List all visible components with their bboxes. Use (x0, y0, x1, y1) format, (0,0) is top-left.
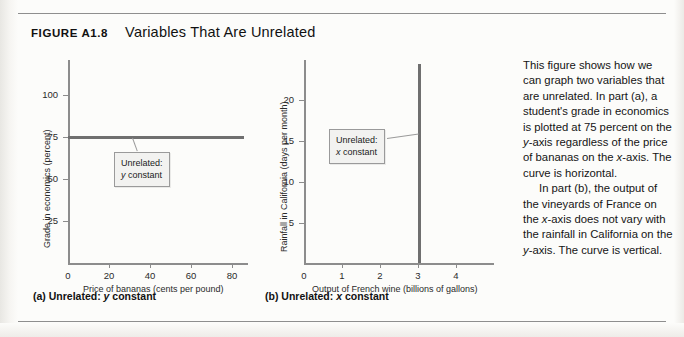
annotation-line2-b: x constant (336, 146, 378, 158)
scan-edge-left (0, 0, 18, 337)
figure-page: FIGURE A1.8 Variables That Are Unrelated… (0, 0, 684, 337)
x-tick-label-b-4: 4 (445, 270, 467, 281)
x-axis-b (304, 263, 494, 265)
annotation-box-b: Unrelated: x constant (329, 129, 385, 164)
figure-header: FIGURE A1.8 Variables That Are Unrelated (31, 24, 316, 40)
x-tick-label-a-0: 0 (57, 270, 79, 281)
y-tick-a-100 (63, 95, 68, 96)
chart-panel-a: 100 75 50 25 0 20 40 60 80 Grade in econ… (28, 58, 268, 308)
side-paragraph-2: In part (b), the output of the vineyards… (523, 181, 673, 258)
y-tick-b-15 (299, 141, 304, 142)
x-tick-a-80 (232, 263, 233, 268)
caption-a-suffix: constant (109, 290, 156, 302)
y-axis-a (68, 60, 70, 264)
x-tick-label-b-0: 0 (293, 270, 315, 281)
x-tick-label-a-20: 20 (98, 270, 120, 281)
annotation-line1-a: Unrelated: (121, 157, 163, 169)
x-tick-label-b-3: 3 (407, 270, 429, 281)
side-paragraph-1: This figure shows how we can graph two v… (523, 58, 673, 181)
side-p2-c: -axis. The curve is vertical. (529, 244, 663, 256)
figure-number: FIGURE A1.8 (31, 27, 108, 39)
annotation-line2-a: y constant (121, 169, 163, 181)
y-tick-label-a-100: 100 (32, 89, 58, 100)
x-tick-a-60 (191, 263, 192, 268)
y-tick-b-10 (299, 182, 304, 183)
x-tick-label-a-40: 40 (139, 270, 161, 281)
scan-edge-bottom (0, 323, 684, 337)
caption-a-prefix: (a) Unrelated: (33, 290, 104, 302)
x-tick-b-1 (342, 263, 343, 268)
figure-title: Variables That Are Unrelated (125, 24, 315, 40)
caption-b-prefix: (b) Unrelated: (265, 290, 336, 302)
x-tick-label-a-80: 80 (221, 270, 243, 281)
x-axis-a (68, 263, 248, 265)
callout-leader-b (387, 134, 419, 139)
annotation-rest-b: constant (341, 147, 378, 157)
bottom-divider (18, 321, 666, 322)
chart-panel-b: 20 15 10 5 0 1 2 3 4 Rainfall in Califor… (262, 58, 512, 308)
y-axis-label-a: Grade in economics (percent) (42, 129, 52, 248)
x-tick-b-3 (418, 263, 419, 268)
x-tick-b-4 (456, 263, 457, 268)
series-line-b (418, 64, 421, 263)
y-tick-b-20 (299, 100, 304, 101)
caption-b-suffix: constant (342, 290, 389, 302)
series-line-a (68, 136, 244, 139)
y-tick-a-50 (63, 179, 68, 180)
top-divider (18, 13, 666, 14)
x-tick-a-40 (150, 263, 151, 268)
side-p1-a: This figure shows how we can graph two v… (523, 59, 672, 133)
y-axis-b (304, 60, 306, 264)
y-tick-a-25 (63, 221, 68, 222)
caption-b: (b) Unrelated: x constant (265, 290, 389, 302)
x-tick-label-a-60: 60 (180, 270, 202, 281)
y-axis-label-b: Rainfall in California (days per month) (279, 101, 289, 252)
x-tick-a-20 (109, 263, 110, 268)
annotation-box-a: Unrelated: y constant (114, 152, 170, 187)
caption-a: (a) Unrelated: y constant (33, 290, 156, 302)
x-tick-label-b-1: 1 (331, 270, 353, 281)
callout-leader-a (132, 138, 138, 151)
annotation-line1-b: Unrelated: (336, 134, 378, 146)
x-tick-b-2 (380, 263, 381, 268)
y-tick-b-5 (299, 223, 304, 224)
x-tick-label-b-2: 2 (369, 270, 391, 281)
side-description: This figure shows how we can graph two v… (523, 58, 673, 258)
scan-edge-right (674, 0, 684, 337)
annotation-rest-a: constant (126, 170, 163, 180)
